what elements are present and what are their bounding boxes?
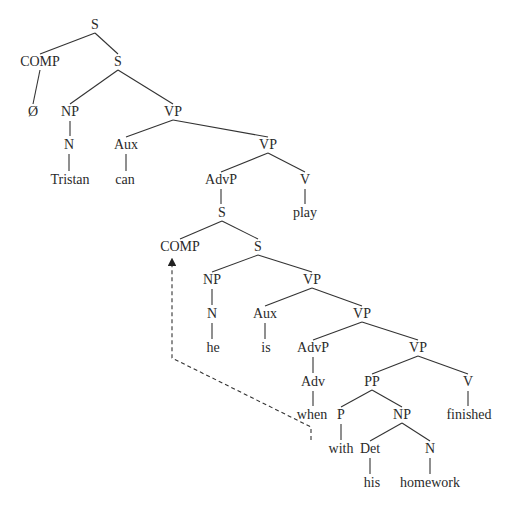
edge-s2-comp2 [180, 221, 222, 239]
tree-node-p: P [337, 408, 345, 422]
edge-vp2-advp1 [221, 153, 268, 172]
tree-node-n1: N [64, 138, 74, 152]
tree-node-vp4: VP [353, 307, 371, 321]
tree-edges [0, 0, 516, 509]
syntax-tree-diagram: SCOMPSØNPVPNAuxVPTristancanAdvPVSplayCOM… [0, 0, 516, 509]
tree-node-aux2: Aux [253, 307, 277, 321]
edge-vp1-aux1 [126, 120, 173, 137]
tree-node-v1: V [300, 173, 310, 187]
edge-vp2-v1 [268, 153, 305, 172]
tree-node-aux1: Aux [114, 138, 138, 152]
edge-s1-vp1 [118, 70, 173, 104]
tree-node-homework: homework [400, 476, 460, 490]
tree-node-n3: N [425, 442, 435, 456]
edge-vp5-v2 [418, 356, 468, 374]
edge-pp-np3 [372, 390, 402, 407]
tree-node-comp2: COMP [160, 240, 200, 254]
edge-s2-s3 [222, 221, 258, 239]
tree-node-vp1: VP [164, 105, 182, 119]
tree-node-det: Det [360, 442, 380, 456]
tree-node-vp5: VP [409, 341, 427, 355]
tree-node-n2: N [207, 307, 217, 321]
edge-vp4-vp5 [362, 322, 418, 340]
edge-s_root-comp1 [40, 33, 95, 54]
tree-node-vp3: VP [303, 273, 321, 287]
tree-node-comp1: COMP [20, 55, 60, 69]
tree-node-can: can [115, 173, 134, 187]
edge-np3-n3 [402, 423, 430, 441]
edge-vp1-vp2 [173, 120, 268, 137]
tree-node-his: his [364, 476, 380, 490]
tree-node-np3: NP [393, 408, 411, 422]
tree-node-pp: PP [364, 375, 380, 389]
movement-arrow [172, 262, 311, 440]
edge-np3-det [370, 423, 402, 441]
tree-node-s1: S [114, 55, 122, 69]
tree-node-he: he [206, 341, 219, 355]
tree-node-np1: NP [61, 105, 79, 119]
tree-node-s2: S [218, 206, 226, 220]
edge-vp3-vp4 [312, 288, 362, 306]
tree-node-with: with [329, 442, 354, 456]
tree-node-null1: Ø [28, 105, 38, 119]
edge-s3-np2 [212, 255, 258, 272]
edge-pp-p [341, 390, 372, 407]
edge-vp5-pp [372, 356, 418, 374]
tree-node-s_root: S [91, 18, 99, 32]
edge-s1-np1 [70, 70, 118, 104]
tree-node-when: when [297, 408, 327, 422]
tree-node-play: play [293, 206, 317, 220]
tree-node-adv: Adv [301, 375, 325, 389]
tree-node-v2: V [463, 375, 473, 389]
tree-node-advp1: AdvP [205, 173, 237, 187]
edge-vp4-advp2 [313, 322, 362, 340]
edge-comp1-null1 [33, 70, 40, 104]
edge-s_root-s1 [95, 33, 118, 54]
tree-node-vp2: VP [259, 138, 277, 152]
edge-s3-vp3 [258, 255, 312, 272]
edge-vp3-aux2 [265, 288, 312, 306]
tree-node-advp2: AdvP [297, 341, 329, 355]
tree-node-finished: finished [446, 408, 491, 422]
tree-node-s3: S [254, 240, 262, 254]
tree-node-is: is [261, 341, 270, 355]
tree-node-np2: NP [203, 273, 221, 287]
tree-node-tristan: Tristan [50, 173, 89, 187]
